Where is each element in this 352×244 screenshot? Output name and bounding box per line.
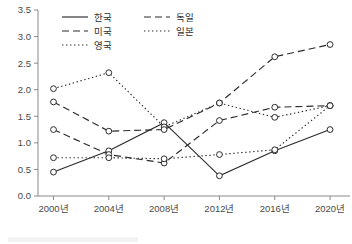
data-point [106, 155, 112, 161]
data-point [106, 128, 112, 134]
legend-label: 독일 [176, 12, 194, 23]
y-tick-label: 3.5 [18, 4, 31, 15]
series-독일 [51, 42, 333, 134]
x-tick-label: 2000년 [38, 203, 68, 214]
series-line [53, 123, 330, 176]
chart-legend: 한국독일미국일본영국 [62, 12, 194, 51]
footer-strip [8, 237, 138, 242]
data-point [51, 99, 57, 105]
series-line [53, 106, 330, 163]
data-point [272, 104, 278, 110]
data-point [272, 147, 278, 153]
legend-label: 영국 [94, 40, 112, 51]
y-tick-label: 1.0 [18, 137, 31, 148]
data-point [327, 42, 333, 48]
data-point [51, 169, 57, 175]
y-tick-label: 1.5 [18, 111, 31, 122]
data-point [217, 152, 223, 158]
data-point [51, 155, 57, 161]
x-tick-label: 2016년 [260, 203, 290, 214]
series-일본 [51, 103, 333, 162]
x-tick-label: 2012년 [204, 203, 234, 214]
y-tick-label: 0.0 [18, 190, 31, 201]
series-line [53, 73, 330, 127]
line-chart: 0.00.51.01.52.02.53.03.5 2000년2004년2008년… [0, 0, 352, 244]
data-point [272, 54, 278, 60]
x-axis: 2000년2004년2008년2012년2016년2020년 [38, 196, 350, 214]
series-layer [51, 42, 333, 179]
legend-item-미국[interactable]: 미국 [62, 26, 112, 37]
y-tick-label: 2.5 [18, 58, 31, 69]
y-tick-label: 3.0 [18, 31, 31, 42]
legend-label: 일본 [176, 26, 194, 37]
data-point [217, 118, 223, 124]
data-point [161, 127, 167, 133]
legend-item-한국[interactable]: 한국 [62, 12, 112, 23]
y-tick-label: 2.0 [18, 84, 31, 95]
legend-item-일본[interactable]: 일본 [144, 26, 194, 37]
legend-label: 한국 [94, 12, 112, 23]
series-영국 [51, 70, 333, 130]
data-point [51, 86, 57, 92]
legend-item-독일[interactable]: 독일 [144, 12, 194, 23]
data-point [217, 100, 223, 106]
data-point [161, 156, 167, 162]
data-point [106, 70, 112, 76]
chart-canvas: 0.00.51.01.52.02.53.03.5 2000년2004년2008년… [0, 0, 352, 244]
legend-item-영국[interactable]: 영국 [62, 40, 112, 51]
y-tick-label: 0.5 [18, 164, 31, 175]
data-point [217, 173, 223, 179]
series-한국 [51, 120, 333, 179]
x-tick-label: 2020년 [315, 203, 345, 214]
series-line [53, 45, 330, 132]
series-line [53, 106, 330, 159]
data-point [272, 114, 278, 120]
y-axis: 0.00.51.01.52.02.53.03.5 [18, 4, 38, 201]
data-point [327, 127, 333, 133]
x-tick-label: 2008년 [149, 203, 179, 214]
legend-label: 미국 [94, 26, 112, 37]
data-point [51, 127, 57, 133]
data-point [327, 103, 333, 109]
x-tick-label: 2004년 [94, 203, 124, 214]
